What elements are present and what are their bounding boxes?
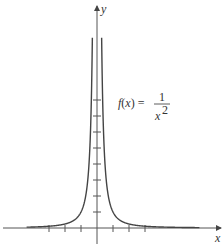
function-denominator: x: [154, 109, 161, 123]
curve-group: [27, 38, 200, 228]
function-label: f(x) = 1 x 2: [118, 90, 170, 123]
function-exponent: 2: [162, 103, 168, 117]
function-lhs: f(x) =: [118, 96, 145, 110]
function-numerator: 1: [159, 90, 165, 104]
curve-left-branch: [27, 38, 93, 227]
y-axis-label: y: [100, 2, 107, 16]
x-axis-label: x: [214, 231, 221, 245]
curve-right-branch: [102, 38, 200, 228]
function-plot: x y f(x) = 1 x 2: [0, 0, 223, 248]
